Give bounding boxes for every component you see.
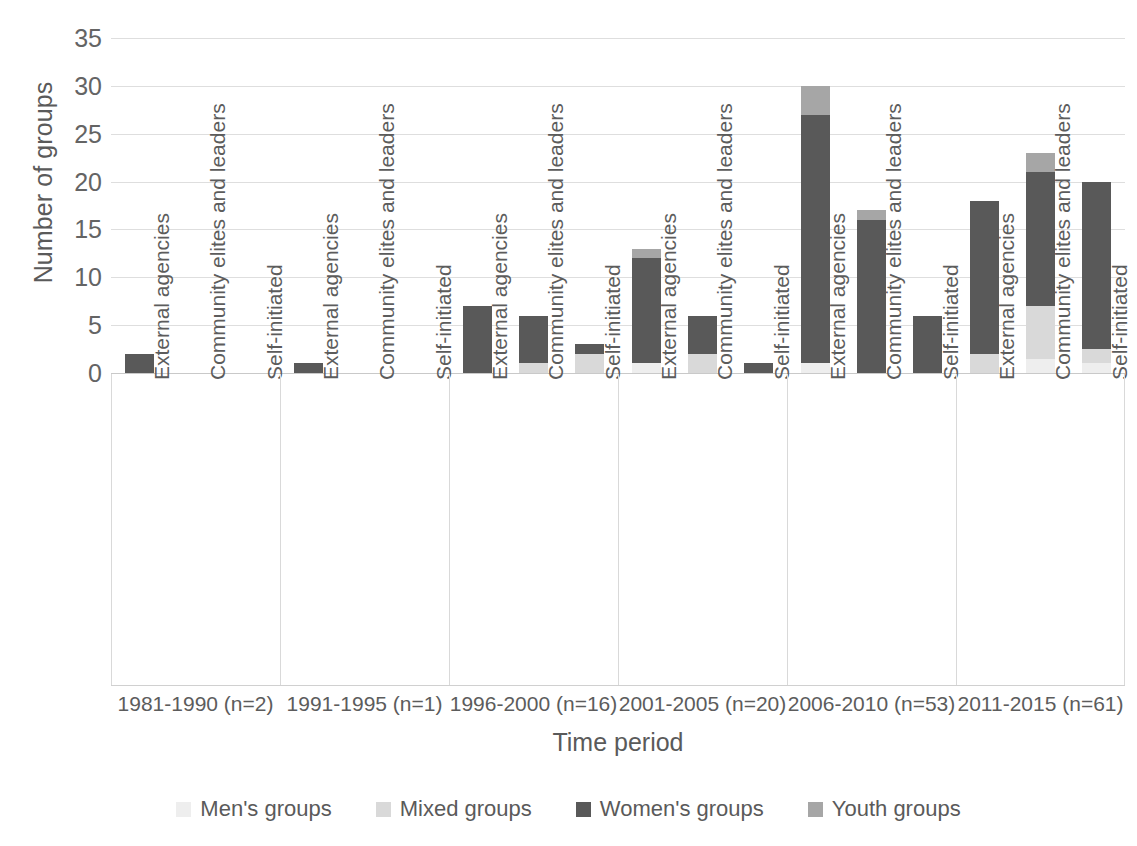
bar-segment-mixed-groups xyxy=(575,354,604,373)
category-label-text: Self-initiated xyxy=(770,264,794,380)
category-label-1-0: External agencies xyxy=(280,374,336,686)
category-label-text: Community elites and leaders xyxy=(882,103,906,380)
category-label-2-0: External agencies xyxy=(449,374,505,686)
group-separator xyxy=(449,374,450,686)
y-axis-tick-10: 10 xyxy=(42,265,102,290)
category-label-text: Community elites and leaders xyxy=(206,103,230,380)
legend-swatch-icon xyxy=(576,802,591,817)
category-label-4-0: External agencies xyxy=(787,374,843,686)
y-axis-tick-labels: 35302520151050 xyxy=(22,0,102,846)
bar-5-2 xyxy=(1082,182,1111,373)
group-separator xyxy=(111,374,112,686)
gridline-25 xyxy=(111,134,1125,135)
y-axis-tick-5: 5 xyxy=(42,313,102,338)
category-label-text: External agencies xyxy=(319,213,343,380)
category-label-text: Community elites and leaders xyxy=(1051,103,1075,380)
category-label-text: Self-initiated xyxy=(601,264,625,380)
gridline-20 xyxy=(111,182,1125,183)
legend-label: Women's groups xyxy=(600,796,764,822)
category-label-text: External agencies xyxy=(657,213,681,380)
chart-legend: Men's groupsMixed groupsWomen's groupsYo… xyxy=(0,796,1137,822)
period-label-1: 1991-1995 (n=1) xyxy=(280,686,449,722)
category-label-2-2: Self-initiated xyxy=(562,374,618,686)
legend-swatch-icon xyxy=(376,802,391,817)
category-label-text: Community elites and leaders xyxy=(544,103,568,380)
x-axis-title: Time period xyxy=(111,728,1125,757)
group-separator xyxy=(787,374,788,686)
category-label-text: External agencies xyxy=(150,213,174,380)
period-label-band: 1981-1990 (n=2)1991-1995 (n=1)1996-2000 … xyxy=(111,686,1125,722)
group-separator xyxy=(280,374,281,686)
bar-4-2 xyxy=(913,316,942,373)
category-label-text: External agencies xyxy=(826,213,850,380)
legend-swatch-icon xyxy=(176,802,191,817)
y-axis-tick-0: 0 xyxy=(42,361,102,386)
category-label-3-2: Self-initiated xyxy=(731,374,787,686)
legend-label: Mixed groups xyxy=(400,796,532,822)
bar-segment-women-s-groups xyxy=(913,316,942,373)
bar-segment-women-s-groups xyxy=(744,363,773,373)
bar-3-2 xyxy=(744,363,773,373)
group-separator xyxy=(956,374,957,686)
legend-item-men-s-groups[interactable]: Men's groups xyxy=(176,796,331,822)
period-label-5: 2011-2015 (n=61) xyxy=(956,686,1125,722)
legend-item-youth-groups[interactable]: Youth groups xyxy=(808,796,961,822)
legend-swatch-icon xyxy=(808,802,823,817)
category-label-4-1: Community elites and leaders xyxy=(843,374,899,686)
category-label-2-1: Community elites and leaders xyxy=(505,374,561,686)
category-label-3-1: Community elites and leaders xyxy=(674,374,730,686)
category-label-text: External agencies xyxy=(995,213,1019,380)
category-label-5-0: External agencies xyxy=(956,374,1012,686)
bar-2-2 xyxy=(575,344,604,373)
y-axis-tick-30: 30 xyxy=(42,73,102,98)
group-separator xyxy=(1124,374,1125,686)
period-label-2: 1996-2000 (n=16) xyxy=(449,686,618,722)
category-label-4-2: Self-initiated xyxy=(900,374,956,686)
period-label-3: 2001-2005 (n=20) xyxy=(618,686,787,722)
y-axis-tick-25: 25 xyxy=(42,121,102,146)
category-label-1-1: Community elites and leaders xyxy=(336,374,392,686)
category-label-0-2: Self-initiated xyxy=(224,374,280,686)
legend-label: Men's groups xyxy=(200,796,331,822)
bar-segment-youth-groups xyxy=(801,86,830,115)
category-label-text: Self-initiated xyxy=(263,264,287,380)
category-label-text: Self-initiated xyxy=(939,264,963,380)
bar-segment-mixed-groups xyxy=(1082,349,1111,363)
category-label-text: Community elites and leaders xyxy=(375,103,399,380)
category-label-1-2: Self-initiated xyxy=(393,374,449,686)
group-separator xyxy=(618,374,619,686)
category-label-0-0: External agencies xyxy=(111,374,167,686)
category-label-5-1: Community elites and leaders xyxy=(1012,374,1068,686)
category-label-band: External agenciesCommunity elites and le… xyxy=(111,374,1125,686)
gridline-30 xyxy=(111,86,1125,87)
bar-segment-women-s-groups xyxy=(575,344,604,354)
category-label-3-0: External agencies xyxy=(618,374,674,686)
legend-label: Youth groups xyxy=(832,796,961,822)
category-label-text: External agencies xyxy=(488,213,512,380)
category-label-text: Self-initiated xyxy=(432,264,456,380)
category-label-text: Community elites and leaders xyxy=(713,103,737,380)
bar-segment-men-s-groups xyxy=(1082,363,1111,373)
bar-segment-women-s-groups xyxy=(1082,182,1111,350)
category-label-0-1: Community elites and leaders xyxy=(167,374,223,686)
period-label-0: 1981-1990 (n=2) xyxy=(111,686,280,722)
legend-item-mixed-groups[interactable]: Mixed groups xyxy=(376,796,532,822)
y-axis-tick-35: 35 xyxy=(42,26,102,51)
legend-item-women-s-groups[interactable]: Women's groups xyxy=(576,796,764,822)
y-axis-tick-20: 20 xyxy=(42,169,102,194)
period-label-4: 2006-2010 (n=53) xyxy=(787,686,956,722)
y-axis-tick-15: 15 xyxy=(42,217,102,242)
category-label-text: Self-initiated xyxy=(1108,264,1132,380)
stacked-bar-chart: Number of groups 35302520151050 External… xyxy=(0,0,1137,846)
category-label-5-2: Self-initiated xyxy=(1069,374,1125,686)
gridline-35 xyxy=(111,38,1125,39)
